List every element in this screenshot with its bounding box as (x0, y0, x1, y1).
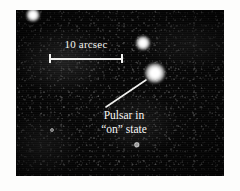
star-upper-left (26, 10, 40, 22)
scanline-texture (16, 10, 224, 176)
pulsar-on-state (145, 63, 166, 84)
image-grain-layer-b (16, 10, 224, 176)
pulsar-annotation: Pulsar in “on” state (64, 108, 184, 136)
scale-bar-line (49, 58, 123, 60)
figure-root: 10 arcsec Pulsar in “on” state (0, 0, 240, 191)
scale-bar-cap-left (49, 54, 51, 63)
faint-source-2 (50, 128, 54, 132)
star-companion (136, 36, 151, 51)
scale-bar-cap-right (121, 54, 123, 63)
faint-source (134, 142, 140, 148)
image-grain-layer-a (16, 10, 224, 176)
pulsar-annotation-line1: Pulsar in (64, 108, 184, 122)
plate-vignette (16, 10, 224, 176)
astronomical-photo-plate: 10 arcsec Pulsar in “on” state (16, 10, 224, 176)
sky-background-mottling (16, 10, 224, 176)
scale-bar (49, 54, 123, 63)
scale-bar-label: 10 arcsec (49, 38, 123, 51)
pulsar-annotation-line2: “on” state (64, 122, 184, 136)
image-grain-layer-c (16, 10, 224, 176)
pulsar-leader-line (16, 10, 224, 176)
